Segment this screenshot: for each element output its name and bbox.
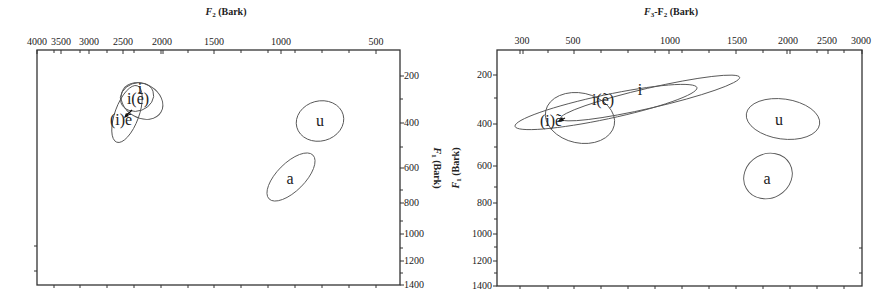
svg-text:500: 500 (369, 36, 384, 47)
left-y-tick-labels: 200 400 600 800 1000 1200 1400 (404, 70, 424, 290)
svg-text:1500: 1500 (204, 36, 224, 47)
svg-text:1000: 1000 (472, 228, 492, 239)
left-x-tick-labels: 4000 3500 3000 2500 2000 1500 1000 500 (27, 36, 384, 47)
vowel-label-u: u (316, 112, 324, 129)
right-vowel-labels: i i(ẽ) (i)ẽ u a (540, 81, 783, 187)
svg-text:4000: 4000 (27, 36, 47, 47)
right-plot-frame (497, 50, 862, 286)
svg-text:400: 400 (477, 118, 492, 129)
svg-text:3000: 3000 (79, 36, 99, 47)
right-ellipses (513, 68, 823, 208)
left-plot-frame (37, 50, 400, 285)
vowel-label-a: a (286, 170, 293, 187)
svg-text:2500: 2500 (817, 35, 837, 46)
svg-text:500: 500 (566, 35, 581, 46)
right-y-axis-title: F1 (Bark) (450, 147, 463, 189)
vowel-label-i-right: i (638, 81, 643, 98)
ellipse-i-right (558, 68, 742, 129)
vowel-label-a-right: a (763, 170, 770, 187)
svg-text:800: 800 (477, 197, 492, 208)
vowel-label-i-e: i(ẽ) (127, 90, 149, 108)
left-chart-svg: F2 (Bark) 4000 3500 3000 2500 2000 1500 … (0, 0, 445, 307)
right-x-axis-title: F3-F2 (Bark) (643, 6, 698, 19)
right-y-tick-labels: 200 400 600 800 1000 1200 1400 (472, 69, 492, 291)
svg-text:3000: 3000 (851, 35, 871, 46)
svg-text:1000: 1000 (271, 36, 291, 47)
svg-text:200: 200 (404, 70, 419, 81)
left-vowel-labels: i i(ẽ) (i)ẽ u a (110, 80, 324, 187)
svg-text:600: 600 (477, 160, 492, 171)
svg-text:1000: 1000 (660, 35, 680, 46)
svg-text:400: 400 (404, 117, 419, 128)
vowel-label-i-e-right: i(ẽ) (592, 91, 614, 109)
left-vowel-chart: F2 (Bark) 4000 3500 3000 2500 2000 1500 … (0, 0, 445, 307)
svg-text:2000: 2000 (778, 35, 798, 46)
svg-text:1400: 1400 (472, 280, 492, 291)
right-x-tick-labels: 300 500 1000 1500 2000 2500 3000 (515, 35, 872, 46)
vowel-label-u-right: u (775, 111, 783, 128)
svg-text:1200: 1200 (472, 255, 492, 266)
svg-text:800: 800 (404, 197, 419, 208)
vowel-label-ie: (i)ẽ (110, 111, 132, 129)
svg-text:3500: 3500 (51, 36, 71, 47)
svg-text:1200: 1200 (404, 255, 424, 266)
right-vowel-chart: F3-F2 (Bark) 300 500 1000 1500 2000 2500… (445, 0, 889, 307)
svg-text:2000: 2000 (152, 36, 172, 47)
left-y-axis-title: F1 (Bark) (430, 146, 443, 188)
svg-text:600: 600 (404, 162, 419, 173)
svg-text:1000: 1000 (404, 228, 424, 239)
left-x-axis-title: F2 (Bark) (204, 6, 246, 19)
right-chart-svg: F3-F2 (Bark) 300 500 1000 1500 2000 2500… (445, 0, 889, 307)
svg-text:1500: 1500 (727, 35, 747, 46)
ellipse-u-right (744, 94, 823, 144)
svg-text:300: 300 (515, 35, 530, 46)
svg-text:1400: 1400 (404, 279, 424, 290)
vowel-label-ie-right: (i)ẽ (540, 112, 562, 130)
svg-text:2500: 2500 (113, 36, 133, 47)
svg-text:200: 200 (477, 69, 492, 80)
